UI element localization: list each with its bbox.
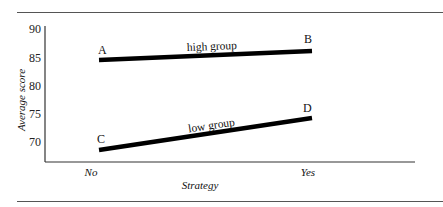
y-axis-label: Average score: [15, 69, 27, 132]
point-label-c: C: [97, 132, 105, 146]
y-tick-70: 70: [29, 135, 41, 149]
point-label-a: A: [98, 43, 107, 57]
point-label-b: B: [304, 32, 312, 46]
line-chart: 90 85 80 75 70 Average score No Yes Stra…: [0, 0, 443, 207]
x-category-no: No: [84, 166, 98, 178]
point-label-d: D: [303, 101, 312, 115]
y-tick-85: 85: [29, 51, 41, 65]
series-high-group-line: [99, 51, 312, 60]
x-category-yes: Yes: [301, 166, 315, 178]
y-tick-90: 90: [29, 22, 41, 36]
y-tick-80: 80: [29, 79, 41, 93]
y-tick-75: 75: [29, 107, 41, 121]
x-axis-label: Strategy: [182, 179, 219, 191]
series-label-high-group: high group: [187, 39, 238, 54]
